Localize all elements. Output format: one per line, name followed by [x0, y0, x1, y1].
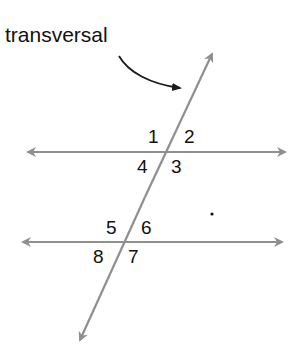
transversal-label: transversal	[5, 23, 108, 47]
stray-dot	[210, 212, 213, 215]
pointer-arrow	[119, 56, 180, 88]
angle-label-6: 6	[141, 218, 152, 237]
angle-label-3: 3	[171, 157, 182, 176]
angle-label-2: 2	[184, 127, 195, 146]
angle-label-4: 4	[137, 157, 148, 176]
lines-svg	[0, 0, 305, 358]
angle-label-1: 1	[148, 127, 159, 146]
angle-label-7: 7	[128, 247, 139, 266]
angle-label-5: 5	[106, 218, 117, 237]
angle-label-8: 8	[93, 247, 104, 266]
